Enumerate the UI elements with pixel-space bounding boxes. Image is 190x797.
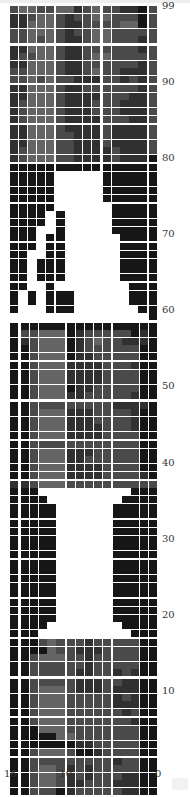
heatmap-cell [94,599,102,606]
heatmap-cell [10,108,18,115]
heatmap-cell [103,647,111,654]
heatmap-cell [47,551,55,558]
heatmap-row [10,424,158,431]
heatmap-cell [149,385,157,392]
heatmap-cell [131,338,139,345]
heatmap-row [10,385,158,392]
heatmap-row [10,234,158,241]
heatmap-cell [131,630,139,637]
heatmap-cell [65,140,73,147]
heatmap-cell [67,441,75,448]
heatmap-cell [28,46,36,53]
heatmap-cell [21,370,29,377]
heatmap-cell [47,749,55,756]
heatmap-cell [10,630,18,637]
heatmap-cell [85,590,93,597]
heatmap-cell [67,639,75,646]
heatmap-cell [46,108,54,115]
heatmap-cell [28,195,36,202]
heatmap-cell [149,567,157,574]
heatmap-cell [37,125,45,132]
heatmap-cell [10,283,18,290]
heatmap-cell [21,679,29,686]
heatmap-cell [85,647,93,654]
heatmap-cell [103,46,111,53]
heatmap-cell [47,472,55,479]
x-tick-label: 0 [155,768,161,779]
heatmap-cell [103,85,111,92]
heatmap-cell [85,449,93,456]
heatmap-row [10,456,158,463]
heatmap-row [10,639,158,646]
heatmap-cell [21,622,29,629]
heatmap-cell [113,758,121,765]
heatmap-cell [46,266,54,273]
heatmap-cell [122,726,130,733]
heatmap-cell [67,749,75,756]
heatmap-cell [140,362,148,369]
heatmap-cell [103,686,111,693]
heatmap-cell [56,575,64,582]
heatmap-cell [122,496,130,503]
heatmap-row [10,402,158,409]
heatmap-cell [56,424,64,431]
heatmap-cell [10,599,18,606]
heatmap-cell [140,417,148,424]
heatmap-cell [140,669,148,676]
heatmap-cell [112,313,120,320]
heatmap-cell [46,53,54,60]
heatmap-cell [46,155,54,162]
heatmap-cell [149,132,157,139]
heatmap-cell [28,116,36,123]
heatmap-cell [10,496,18,503]
heatmap-cell [94,432,102,439]
heatmap-cell [138,298,146,305]
heatmap-cell [113,417,121,424]
heatmap-cell [103,520,111,527]
heatmap-cell [47,432,55,439]
heatmap-cell [21,520,29,527]
heatmap-cell [129,147,137,154]
heatmap-cell [21,432,29,439]
heatmap-cell [56,686,64,693]
heatmap-cell [67,758,75,765]
heatmap-cell [113,338,121,345]
heatmap-cell [74,68,82,75]
heatmap-cell [30,639,38,646]
heatmap-cell [94,472,102,479]
heatmap-cell [131,718,139,725]
heatmap-cell [113,575,121,582]
heatmap-cell [56,583,64,590]
heatmap-cell [113,741,121,748]
heatmap-cell [30,472,38,479]
heatmap-cell [21,694,29,701]
heatmap-cell [85,630,93,637]
heatmap-cell [113,647,121,654]
heatmap-cell [129,46,137,53]
heatmap-cell [46,172,54,179]
heatmap-row [10,345,158,352]
heatmap-cell [149,615,157,622]
heatmap-cell [138,179,146,186]
heatmap-cell [103,125,111,132]
heatmap-cell [103,456,111,463]
heatmap-cell [149,306,157,313]
heatmap-row [10,291,158,298]
heatmap-cell [37,179,45,186]
heatmap-cell [122,543,130,550]
y-tick-label: 30 [162,534,175,544]
heatmap-cell [67,726,75,733]
heatmap-cell [39,504,47,511]
heatmap-cell [10,424,18,431]
heatmap-cell [129,100,137,107]
y-tick-label: 10 [162,686,175,696]
heatmap-cell [76,543,84,550]
heatmap-cell [10,53,18,60]
heatmap-cell [149,68,157,75]
heatmap-row [10,630,158,637]
heatmap-cell [21,417,29,424]
heatmap-cell [10,85,18,92]
heatmap-cell [113,590,121,597]
heatmap-cell [131,472,139,479]
heatmap-cell [10,718,18,725]
